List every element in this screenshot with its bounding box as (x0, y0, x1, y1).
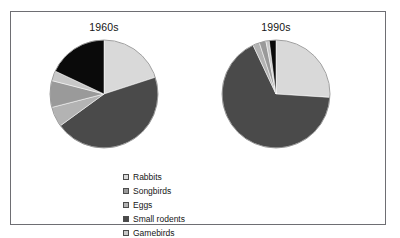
legend-swatch-songbirds (123, 188, 129, 194)
legend-item-gamebirds: Gamebirds (123, 226, 227, 237)
legend-column-right: Small rodents Gamebirds Other prey (123, 212, 227, 237)
figure-frame: 1960s 1990s Rabbits Songbirds (10, 11, 386, 225)
legend-label-gamebirds: Gamebirds (133, 228, 175, 238)
chart-area: 1960s 1990s Rabbits Songbirds (11, 12, 385, 224)
legend: Rabbits Songbirds Eggs Small rodents (123, 170, 313, 237)
legend-swatch-gamebirds (123, 230, 129, 236)
legend-column-left: Rabbits Songbirds Eggs (123, 170, 205, 212)
legend-swatch-eggs (123, 202, 129, 208)
legend-swatch-small-rodents (123, 216, 129, 222)
legend-label-eggs: Eggs (133, 200, 152, 210)
legend-label-songbirds: Songbirds (133, 186, 171, 196)
pie-holder-1990s (201, 38, 351, 150)
pie-title-1990s: 1990s (201, 20, 351, 34)
legend-label-small-rodents: Small rodents (133, 214, 185, 224)
pie-panel-1990s: 1990s (201, 20, 351, 150)
legend-item-eggs: Eggs (123, 198, 205, 211)
pie-slice-rabbits (276, 40, 330, 97)
legend-item-songbirds: Songbirds (123, 184, 205, 197)
pie-holder-1960s (29, 38, 179, 150)
legend-item-small-rodents: Small rodents (123, 212, 227, 225)
pie-title-1960s: 1960s (29, 20, 179, 34)
pie-chart-1960s (48, 38, 160, 150)
legend-swatch-rabbits (123, 174, 129, 180)
legend-item-rabbits: Rabbits (123, 170, 205, 183)
legend-label-rabbits: Rabbits (133, 172, 162, 182)
pie-panel-1960s: 1960s (29, 20, 179, 150)
pie-chart-1990s (220, 38, 332, 150)
